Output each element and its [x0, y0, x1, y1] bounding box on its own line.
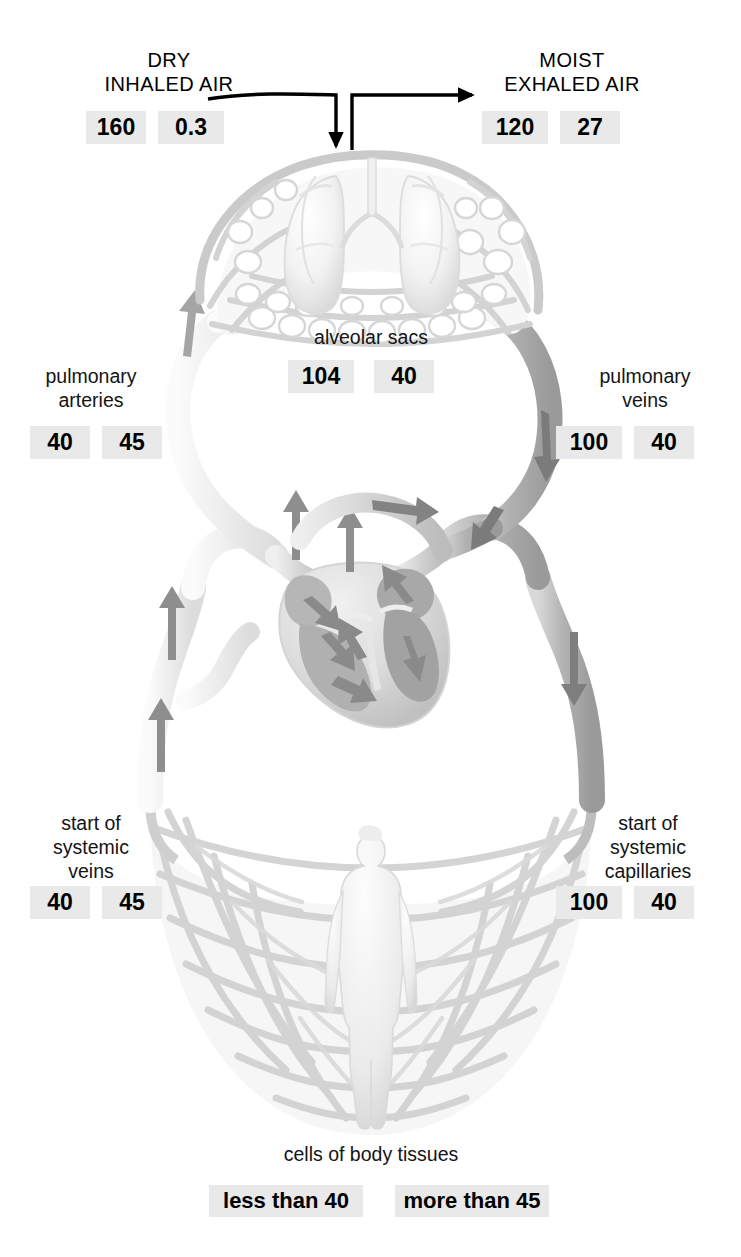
- label-start-of-systemic-veins: start of systemic veins: [6, 812, 176, 883]
- value-pulmonary-arteries-o2: 40: [30, 426, 90, 459]
- value-moist-exhaled-air-o2: 120: [482, 111, 548, 144]
- value-pulmonary-arteries-co2: 45: [102, 426, 162, 459]
- values-systemic-capillaries: 100 40: [556, 886, 694, 919]
- label-cells-of-body-tissues: cells of body tissues: [221, 1143, 521, 1167]
- aorta-systemic-artery: [442, 526, 592, 800]
- gas-exchange-circulation-figure: DRY INHALED AIR 160 0.3 MOIST EXHALED AI…: [0, 0, 741, 1257]
- values-systemic-veins: 40 45: [30, 886, 162, 919]
- circulation-illustration: [0, 0, 741, 1257]
- label-alveolar-sacs: alveolar sacs: [271, 326, 471, 350]
- exhaled-air-arrow: [352, 95, 472, 150]
- heart: [276, 490, 449, 727]
- value-dry-inhaled-air-o2: 160: [86, 111, 146, 144]
- systemic-vein-trunk: [148, 536, 276, 800]
- value-pulmonary-veins-co2: 40: [634, 426, 694, 459]
- inhaled-air-arrow: [208, 94, 336, 146]
- values-pulmonary-arteries: 40 45: [30, 426, 162, 459]
- value-moist-exhaled-air-co2: 27: [560, 111, 620, 144]
- trachea: [368, 158, 376, 216]
- label-start-of-systemic-capillaries: start of systemic capillaries: [560, 812, 736, 883]
- value-alveolar-sacs-co2: 40: [374, 360, 434, 393]
- value-alveolar-sacs-o2: 104: [288, 360, 354, 393]
- airflow-arrows: [208, 94, 472, 150]
- value-systemic-capillaries-co2: 40: [634, 886, 694, 919]
- value-body-tissue-cells-co2: more than 45: [395, 1185, 549, 1217]
- values-dry-inhaled-air: 160 0.3: [86, 111, 224, 144]
- label-pulmonary-arteries: pulmonary arteries: [6, 365, 176, 413]
- label-dry-inhaled-air: DRY INHALED AIR: [74, 48, 264, 97]
- value-systemic-veins-co2: 45: [102, 886, 162, 919]
- values-moist-exhaled-air: 120 27: [482, 111, 620, 144]
- value-body-tissue-cells-o2: less than 40: [209, 1185, 363, 1217]
- values-alveolar-sacs: 104 40: [288, 360, 434, 393]
- value-systemic-veins-o2: 40: [30, 886, 90, 919]
- label-moist-exhaled-air: MOIST EXHALED AIR: [472, 48, 672, 97]
- values-pulmonary-veins: 100 40: [556, 426, 694, 459]
- values-body-tissue-cells: less than 40 more than 45: [209, 1185, 549, 1217]
- value-pulmonary-veins-o2: 100: [556, 426, 622, 459]
- label-pulmonary-veins: pulmonary veins: [560, 365, 730, 413]
- value-dry-inhaled-air-co2: 0.3: [158, 111, 224, 144]
- value-systemic-capillaries-o2: 100: [556, 886, 622, 919]
